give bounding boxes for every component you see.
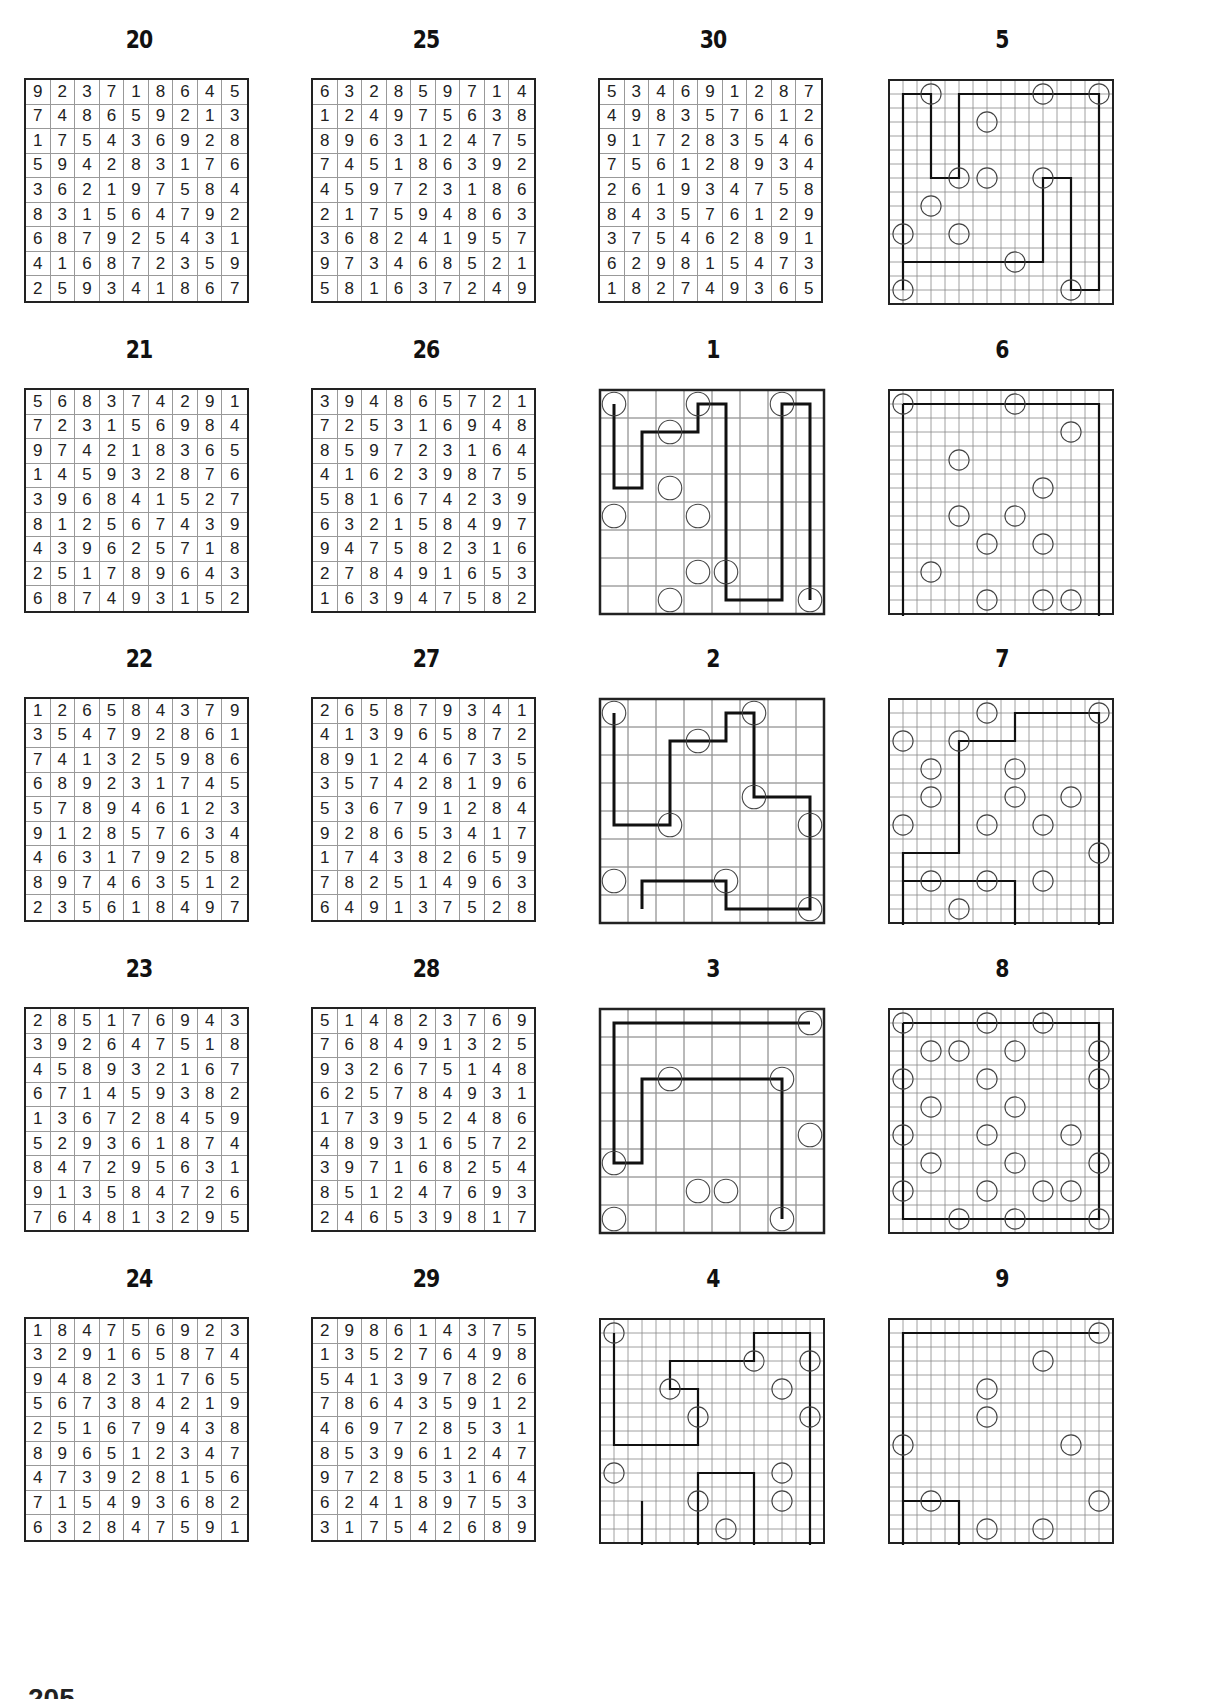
grid-cell: 3	[75, 80, 100, 105]
sudoku-grid: 5346912874983576129172835467561289342619…	[598, 78, 823, 303]
grid-cell: 7	[124, 252, 149, 277]
grid-cell: 7	[436, 276, 461, 301]
grid-cell: 6	[313, 1491, 338, 1516]
grid-cell: 1	[772, 105, 797, 130]
grid-cell: 5	[460, 1417, 485, 1442]
grid-cell: 7	[100, 1319, 125, 1344]
grid-cell: 5	[313, 276, 338, 301]
grid-cell: 5	[411, 1107, 436, 1132]
grid-cell: 1	[313, 846, 338, 871]
grid-cell: 8	[625, 276, 650, 301]
puzzle-number: 6	[904, 336, 1100, 364]
grid-cell: 2	[313, 562, 338, 587]
grid-cell: 6	[26, 773, 51, 798]
sudoku-solution: 2092371864574865921317543692859428317636…	[24, 28, 254, 308]
grid-cell: 8	[124, 699, 149, 724]
grid-cell: 1	[100, 846, 125, 871]
grid-cell: 3	[100, 390, 125, 415]
grid-cell: 2	[436, 846, 461, 871]
grid-cell: 8	[26, 513, 51, 538]
grid-cell: 3	[509, 1491, 534, 1516]
grid-cell: 5	[75, 1491, 100, 1516]
grid-cell: 4	[75, 154, 100, 179]
grid-cell: 2	[485, 252, 510, 277]
grid-cell: 3	[747, 276, 772, 301]
grid-cell: 4	[436, 1319, 461, 1344]
grid-cell: 9	[772, 227, 797, 252]
grid-cell: 9	[26, 80, 51, 105]
grid-cell: 1	[198, 105, 223, 130]
grid-cell: 1	[509, 699, 534, 724]
grid-cell: 8	[485, 1107, 510, 1132]
grid-cell: 8	[485, 1515, 510, 1540]
grid-cell: 1	[222, 227, 247, 252]
grid-cell: 9	[485, 513, 510, 538]
grid-cell: 8	[198, 415, 223, 440]
grid-cell: 2	[124, 748, 149, 773]
grid-cell: 1	[124, 895, 149, 920]
grid-cell: 7	[100, 80, 125, 105]
grid-cell: 1	[51, 513, 76, 538]
grid-cell: 8	[338, 1393, 363, 1418]
grid-cell: 5	[75, 464, 100, 489]
grid-cell: 9	[362, 439, 387, 464]
grid-cell: 1	[747, 203, 772, 228]
grid-cell: 7	[387, 797, 412, 822]
sudoku-grid: 2658793414139658728912467353574281965367…	[311, 697, 536, 922]
grid-cell: 4	[75, 1205, 100, 1230]
grid-cell: 9	[173, 415, 198, 440]
grid-cell: 9	[600, 129, 625, 154]
grid-cell: 7	[772, 252, 797, 277]
grid-cell: 3	[124, 1058, 149, 1083]
grid-cell: 4	[485, 276, 510, 301]
grid-cell: 6	[124, 871, 149, 896]
grid-cell: 5	[460, 1132, 485, 1157]
grid-cell: 3	[772, 154, 797, 179]
grid-cell: 3	[313, 773, 338, 798]
grid-cell: 5	[796, 276, 821, 301]
grid-cell: 5	[387, 1515, 412, 1540]
grid-cell: 5	[411, 80, 436, 105]
puzzle-number: 22	[41, 645, 237, 673]
grid-cell: 8	[509, 415, 534, 440]
grid-cell: 1	[723, 80, 748, 105]
grid-cell: 4	[387, 773, 412, 798]
grid-cell: 4	[222, 1344, 247, 1369]
grid-cell: 9	[387, 1107, 412, 1132]
grid-cell: 3	[485, 1417, 510, 1442]
grid-cell: 6	[75, 252, 100, 277]
grid-cell: 1	[124, 80, 149, 105]
grid-cell: 5	[51, 1058, 76, 1083]
grid-cell: 5	[387, 203, 412, 228]
grid-cell: 2	[173, 105, 198, 130]
grid-cell: 2	[26, 1417, 51, 1442]
grid-cell: 3	[485, 1083, 510, 1108]
grid-cell: 6	[362, 464, 387, 489]
grid-cell: 7	[26, 1491, 51, 1516]
grid-cell: 3	[51, 203, 76, 228]
grid-cell: 9	[362, 1417, 387, 1442]
grid-cell: 2	[313, 699, 338, 724]
grid-cell: 1	[149, 276, 174, 301]
grid-cell: 6	[313, 80, 338, 105]
grid-cell: 7	[436, 1181, 461, 1206]
grid-cell: 5	[338, 1181, 363, 1206]
grid-cell: 4	[338, 537, 363, 562]
grid-cell: 2	[75, 822, 100, 847]
grid-cell: 6	[26, 586, 51, 611]
grid-cell: 2	[100, 439, 125, 464]
grid-cell: 5	[747, 129, 772, 154]
grid-cell: 7	[485, 724, 510, 749]
grid-cell: 4	[485, 1442, 510, 1467]
grid-cell: 6	[509, 1107, 534, 1132]
grid-cell: 8	[649, 105, 674, 130]
grid-cell: 2	[387, 1344, 412, 1369]
grid-cell: 7	[198, 154, 223, 179]
grid-cell: 4	[723, 178, 748, 203]
grid-cell: 6	[75, 1107, 100, 1132]
grid-cell: 7	[698, 203, 723, 228]
grid-cell: 6	[747, 105, 772, 130]
grid-cell: 3	[698, 178, 723, 203]
grid-cell: 5	[436, 724, 461, 749]
grid-cell: 4	[747, 252, 772, 277]
